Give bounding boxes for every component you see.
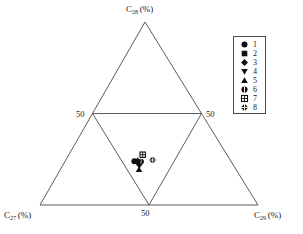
legend-item-7: 7 [234,94,265,103]
tick-label-right-50: 50 [206,109,215,119]
legend-label-7: 7 [253,94,257,103]
legend-item-4: 4 [234,67,265,76]
legend-item-8: 8 [234,103,265,112]
axis-label-left-sub: 27 [10,215,16,221]
ternary-diagram-figure: C28 (%) C27 (%) C29 (%) 50 50 50 1 2 [0,0,303,234]
legend-item-1: 1 [234,40,265,49]
diamond-cross-icon [239,103,250,112]
legend-label-4: 4 [253,67,257,76]
filled-up-triangle-icon [239,76,250,85]
marker-series-8 [149,156,156,163]
marker-series-7 [140,152,145,157]
data-markers [131,152,156,172]
filled-diamond-icon [239,58,250,67]
legend-label-5: 5 [253,76,257,85]
axis-label-left-unit: (%) [18,210,32,220]
circle-vline-icon [239,85,250,94]
filled-square-icon [239,49,250,58]
tick-label-bottom-50: 50 [141,208,150,218]
legend-label-2: 2 [253,49,257,58]
axis-label-top-sub: 28 [132,9,138,15]
legend-item-3: 3 [234,58,265,67]
axis-label-right: C29 (%) [254,210,281,221]
legend-item-2: 2 [234,49,265,58]
square-cross-icon [239,94,250,103]
legend-item-6: 6 [234,85,265,94]
filled-circle-icon [239,40,250,49]
mid-line-right [149,114,202,206]
legend-label-3: 3 [253,58,257,67]
legend-item-5: 5 [234,76,265,85]
filled-down-triangle-icon [239,67,250,76]
axis-label-top-unit: (%) [140,4,154,14]
legend: 1 2 3 4 [233,36,266,114]
axis-label-right-sub: 29 [260,215,266,221]
legend-label-1: 1 [253,40,257,49]
legend-label-6: 6 [253,85,257,94]
axis-label-top: C28 (%) [126,4,153,15]
tick-label-left-50: 50 [76,109,85,119]
axis-label-right-unit: (%) [268,210,282,220]
axis-label-left: C27 (%) [4,210,31,221]
legend-list: 1 2 3 4 [234,37,265,113]
marker-series-5 [136,167,143,172]
legend-label-8: 8 [253,103,257,112]
